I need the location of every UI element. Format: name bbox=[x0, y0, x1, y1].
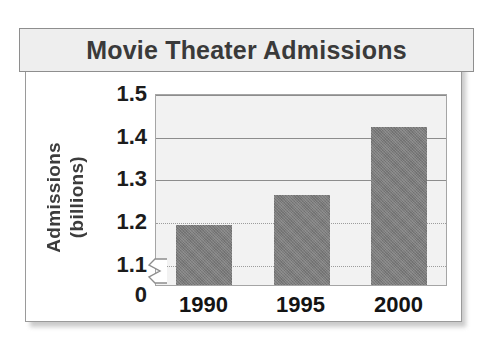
y-axis-tick-labels: 1.51.41.31.21.10 bbox=[95, 94, 147, 286]
x-tick-label-1990: 1990 bbox=[155, 292, 252, 318]
y-tick-label-1.5: 1.5 bbox=[99, 83, 147, 105]
chart-figure: Movie Theater Admissions Admissions (bil… bbox=[0, 0, 490, 360]
y-axis-title-line-1: Admissions bbox=[43, 142, 65, 253]
bar-2000 bbox=[371, 127, 427, 285]
plot-area bbox=[155, 94, 447, 286]
bar-1995 bbox=[274, 195, 330, 285]
x-tick-label-1995: 1995 bbox=[252, 292, 349, 318]
y-axis-title-line-2: (billions) bbox=[66, 156, 88, 238]
y-axis-break-icon bbox=[146, 256, 168, 286]
y-tick-label-1.3: 1.3 bbox=[99, 168, 147, 190]
y-tick-label-1.1: 1.1 bbox=[99, 254, 147, 276]
x-tick-label-2000: 2000 bbox=[350, 292, 447, 318]
y-axis-title: Admissions (billions) bbox=[30, 110, 100, 285]
chart-title: Movie Theater Admissions bbox=[86, 36, 407, 65]
y-tick-label-1.2: 1.2 bbox=[99, 211, 147, 233]
y-tick-label-0: 0 bbox=[99, 284, 147, 306]
bar-1990 bbox=[176, 225, 232, 285]
chart-title-band: Movie Theater Admissions bbox=[19, 28, 474, 72]
y-tick-label-1.4: 1.4 bbox=[99, 126, 147, 148]
x-axis-tick-labels: 199019952000 bbox=[155, 292, 447, 324]
gridline-1.5 bbox=[156, 95, 446, 96]
